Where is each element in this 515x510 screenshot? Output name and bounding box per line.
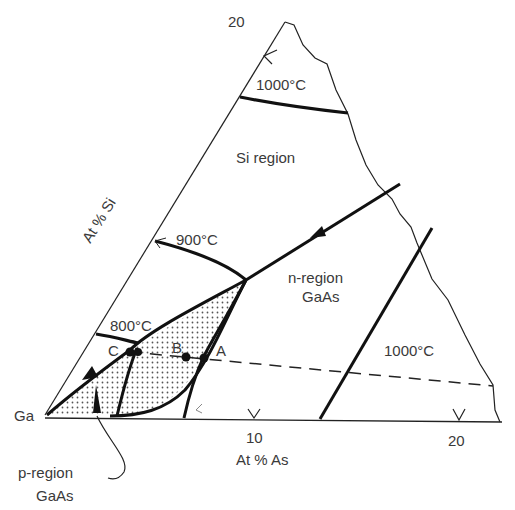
isotherm-1000-top-label: 1000°C: [256, 77, 306, 92]
point-a-label: A: [216, 343, 226, 358]
p-region-label: p-region: [18, 465, 73, 480]
as-tick-20: 20: [448, 433, 465, 448]
tick-small-mark: [196, 404, 202, 413]
n-region-label: n-region: [288, 270, 343, 285]
isotherm-1000-right-label: 1000°C: [384, 343, 434, 358]
right-boundary: [285, 22, 500, 422]
point-b: [182, 353, 191, 362]
si-tick-20: 20: [228, 14, 245, 29]
isotherm-800-label: 800°C: [110, 318, 152, 333]
isotherm-1000-right: [320, 228, 432, 419]
n-region-label-2: GaAs: [302, 289, 340, 304]
p-region-leader: [97, 416, 125, 479]
as-axis-line: [45, 418, 502, 422]
point-c2: [134, 348, 142, 356]
as-tick-10: 10: [246, 430, 263, 445]
point-c-label: C: [108, 343, 119, 358]
tick-as-10: [248, 409, 260, 418]
point-c: [126, 348, 135, 357]
ga-corner-label: Ga: [14, 408, 34, 423]
isotherm-900-label: 900°C: [176, 232, 218, 247]
isotherm-1000-top: [240, 97, 348, 113]
as-axis-label: At % As: [236, 452, 289, 467]
tick-as-20: [453, 409, 465, 420]
si-region-label: Si region: [236, 150, 295, 165]
p-region-label-2: GaAs: [36, 488, 74, 503]
arrow-head-upper: [310, 226, 326, 238]
point-b-label: B: [172, 340, 182, 355]
point-a: [200, 354, 209, 363]
